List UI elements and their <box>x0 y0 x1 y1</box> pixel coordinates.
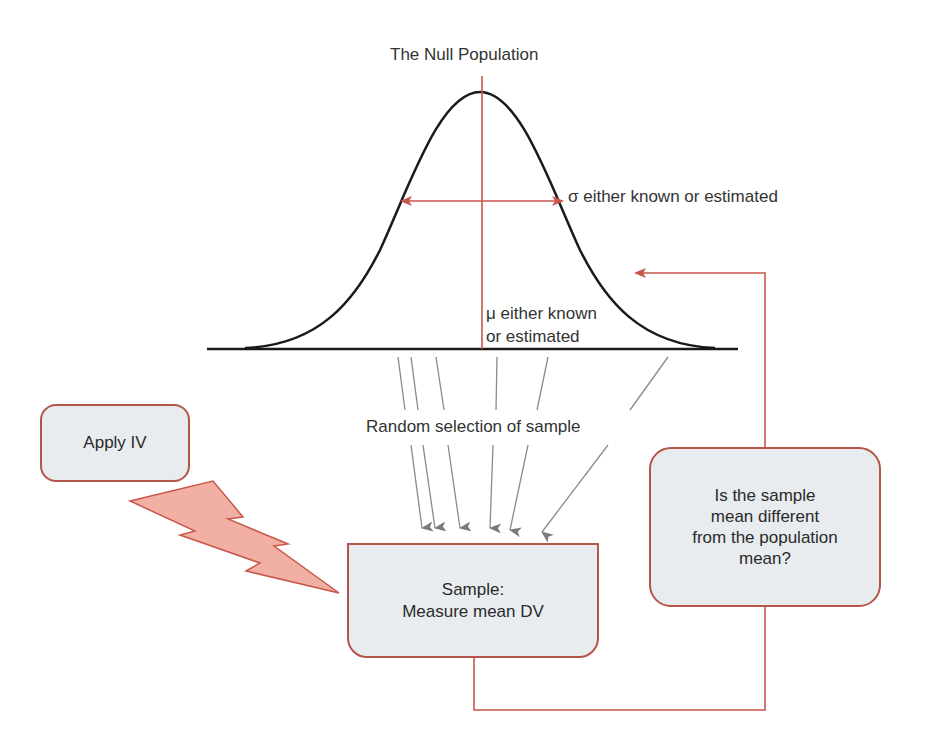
sample-label-line1: Sample: <box>402 579 544 600</box>
diagram-title: The Null Population <box>390 45 538 65</box>
apply-iv-box: Apply IV <box>40 404 190 482</box>
sample-box: Sample: Measure mean DV <box>347 543 599 658</box>
apply-iv-label: Apply IV <box>83 432 146 453</box>
question-line3: from the population <box>692 527 838 548</box>
mu-label-line2: or estimated <box>486 327 580 347</box>
question-line2: mean different <box>692 506 838 527</box>
lightning-bolt-icon <box>130 481 339 593</box>
sampling-arrows <box>398 357 668 532</box>
normal-distribution-curve <box>245 92 715 348</box>
question-box: Is the sample mean different from the po… <box>649 447 881 607</box>
sigma-label: σ either known or estimated <box>568 187 778 207</box>
sample-label-line2: Measure mean DV <box>402 601 544 622</box>
feedback-arrow <box>636 273 765 447</box>
question-line4: mean? <box>692 548 838 569</box>
mu-label-line1: μ either known <box>486 304 597 324</box>
random-selection-label: Random selection of sample <box>366 417 581 437</box>
question-line1: Is the sample <box>692 485 838 506</box>
